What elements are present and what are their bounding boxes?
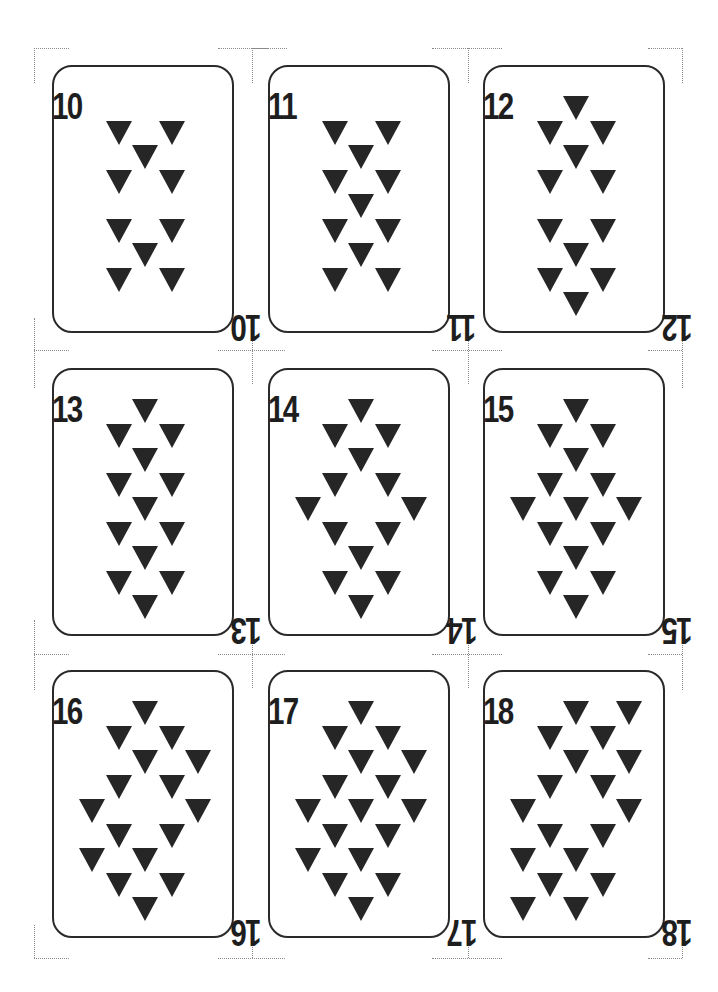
- triangle-pip-icon: [159, 424, 185, 448]
- triangle-pip-icon: [616, 701, 642, 725]
- crop-mark-horizontal: [648, 654, 682, 655]
- triangle-pip-icon: [132, 546, 158, 570]
- playing-card-11: 1111: [268, 65, 450, 333]
- triangle-pip-icon: [590, 473, 616, 497]
- triangle-pip-icon: [375, 522, 401, 546]
- playing-card-13: 1313: [52, 368, 234, 636]
- triangle-pip-icon: [132, 595, 158, 619]
- triangle-pip-icon: [375, 268, 401, 292]
- triangle-pip-icon: [132, 243, 158, 267]
- triangle-pip-icon: [79, 799, 105, 823]
- triangle-pip-icon: [590, 170, 616, 194]
- triangle-pip-icon: [563, 96, 589, 120]
- crop-mark-vertical: [34, 318, 35, 388]
- triangle-pip-icon: [563, 546, 589, 570]
- crop-mark-vertical: [252, 48, 253, 83]
- triangle-pip-icon: [537, 219, 563, 243]
- triangle-pip-icon: [322, 824, 348, 848]
- triangle-pip-icon: [616, 497, 642, 521]
- triangle-pip-icon: [348, 595, 374, 619]
- triangle-pip-icon: [348, 399, 374, 423]
- playing-card-16: 1616: [52, 670, 234, 938]
- playing-card-14: 1414: [268, 368, 450, 636]
- triangle-pip-icon: [537, 170, 563, 194]
- crop-mark-horizontal: [34, 48, 69, 49]
- card-rank-top: 16: [52, 694, 82, 730]
- triangle-pip-icon: [106, 873, 132, 897]
- crop-mark-horizontal: [252, 48, 287, 49]
- triangle-pip-icon: [563, 497, 589, 521]
- triangle-pip-icon: [132, 701, 158, 725]
- triangle-pip-icon: [348, 243, 374, 267]
- triangle-pip-icon: [106, 121, 132, 145]
- triangle-pip-icon: [348, 546, 374, 570]
- triangle-pip-icon: [322, 473, 348, 497]
- triangle-pip-icon: [510, 799, 536, 823]
- triangle-pip-icon: [295, 848, 321, 872]
- crop-mark-horizontal: [218, 958, 285, 959]
- triangle-pip-icon: [616, 799, 642, 823]
- crop-mark-horizontal: [648, 48, 682, 49]
- triangle-pip-icon: [159, 775, 185, 799]
- triangle-pip-icon: [510, 848, 536, 872]
- triangle-pip-icon: [185, 750, 211, 774]
- crop-mark-horizontal: [34, 350, 69, 351]
- triangle-pip-icon: [563, 243, 589, 267]
- triangle-pip-icon: [159, 873, 185, 897]
- card-rank-top: 10: [52, 89, 82, 125]
- card-rank-bottom-inverted: 16: [232, 914, 262, 950]
- triangle-pip-icon: [563, 448, 589, 472]
- triangle-pip-icon: [322, 522, 348, 546]
- card-rank-top: 11: [268, 89, 296, 125]
- card-rank-bottom-inverted: 12: [663, 309, 693, 345]
- triangle-pip-icon: [401, 799, 427, 823]
- triangle-pip-icon: [563, 848, 589, 872]
- triangle-pip-icon: [322, 571, 348, 595]
- crop-mark-horizontal: [648, 958, 682, 959]
- playing-card-10: 1010: [52, 65, 234, 333]
- card-rank-bottom-inverted: 15: [663, 612, 693, 648]
- triangle-pip-icon: [322, 121, 348, 145]
- triangle-pip-icon: [563, 145, 589, 169]
- triangle-pip-icon: [537, 268, 563, 292]
- triangle-pip-icon: [159, 219, 185, 243]
- triangle-pip-icon: [132, 848, 158, 872]
- triangle-pip-icon: [590, 726, 616, 750]
- triangle-pip-icon: [106, 726, 132, 750]
- triangle-pip-icon: [375, 775, 401, 799]
- triangle-pip-icon: [375, 219, 401, 243]
- triangle-pip-icon: [563, 399, 589, 423]
- card-rank-bottom-inverted: 10: [232, 309, 262, 345]
- playing-card-15: 1515: [483, 368, 665, 636]
- crop-mark-vertical: [682, 48, 683, 83]
- triangle-pip-icon: [590, 424, 616, 448]
- triangle-pip-icon: [537, 571, 563, 595]
- triangle-pip-icon: [375, 424, 401, 448]
- card-rank-top: 17: [268, 694, 298, 730]
- triangle-pip-icon: [563, 750, 589, 774]
- triangle-pip-icon: [590, 824, 616, 848]
- playing-card-17: 1717: [268, 670, 450, 938]
- triangle-pip-icon: [159, 121, 185, 145]
- triangle-pip-icon: [537, 121, 563, 145]
- triangle-pip-icon: [348, 799, 374, 823]
- card-sheet: 101011111212131314141515161617171818: [0, 0, 718, 992]
- triangle-pip-icon: [590, 571, 616, 595]
- triangle-pip-icon: [510, 497, 536, 521]
- triangle-pip-icon: [322, 170, 348, 194]
- card-rank-top: 13: [52, 392, 82, 428]
- triangle-pip-icon: [322, 268, 348, 292]
- playing-card-12: 1212: [483, 65, 665, 333]
- crop-mark-horizontal: [432, 350, 502, 351]
- triangle-pip-icon: [590, 268, 616, 292]
- triangle-pip-icon: [590, 219, 616, 243]
- triangle-pip-icon: [106, 170, 132, 194]
- triangle-pip-icon: [537, 522, 563, 546]
- triangle-pip-icon: [348, 848, 374, 872]
- triangle-pip-icon: [537, 424, 563, 448]
- triangle-pip-icon: [537, 473, 563, 497]
- triangle-pip-icon: [348, 750, 374, 774]
- triangle-pip-icon: [322, 219, 348, 243]
- triangle-pip-icon: [348, 194, 374, 218]
- card-rank-bottom-inverted: 17: [448, 914, 478, 950]
